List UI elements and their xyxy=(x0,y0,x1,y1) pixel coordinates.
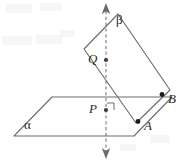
arrow-down-icon xyxy=(102,148,110,159)
figure-canvas xyxy=(0,0,182,162)
label-alpha: α xyxy=(24,118,31,131)
label-point-a: A xyxy=(144,119,152,132)
point-q-marker xyxy=(104,58,108,62)
label-point-q: Q xyxy=(88,52,97,65)
label-beta: β xyxy=(116,13,123,26)
label-point-b: B xyxy=(168,92,176,105)
right-angle-marker xyxy=(107,103,114,110)
geometry-figure: α β Q P A B xyxy=(0,0,182,162)
label-point-p: P xyxy=(89,102,97,115)
point-p-marker xyxy=(104,108,108,112)
point-b-marker xyxy=(160,92,165,97)
point-a-marker xyxy=(136,119,141,124)
